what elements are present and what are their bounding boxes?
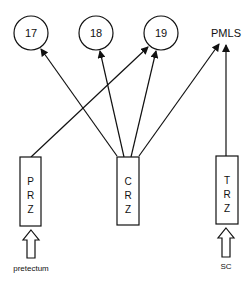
inputs-group: pretectumSC [13,228,234,273]
arrow-crz-to-19 [131,51,156,157]
zone-letter: Z [125,204,131,215]
input-sc: SC [218,228,234,271]
zones-group: PRZCRZTRZ [20,156,238,226]
arrow-crz-to-pmls [139,44,219,156]
target-pmls: PMLS [211,27,241,39]
arrow-crz-to-18 [100,51,124,157]
arrow-prz-to-19 [31,47,148,157]
area-label: 18 [90,27,102,39]
zone-trz: TRZ [216,156,238,224]
zone-letter: R [223,189,230,200]
diagram-canvas: 171819PMLS PRZCRZTRZ pretectumSC [0,0,246,285]
zone-letter: Z [27,204,33,215]
zone-letter: R [27,190,34,201]
input-label: SC [220,262,231,271]
targets-group: 171819PMLS [14,16,241,50]
connections-group [31,44,226,157]
zone-letter: Z [224,203,230,214]
hollow-up-arrow-icon [23,230,39,258]
area-label: 17 [25,27,37,39]
hollow-up-arrow-icon [218,228,234,257]
area-label: 19 [155,27,167,39]
zone-crz: CRZ [117,157,139,225]
zone-letter: T [224,175,230,186]
target-17: 17 [14,16,48,50]
pmls-label: PMLS [211,27,241,39]
target-18: 18 [79,16,113,50]
input-pretectum: pretectum [13,230,49,273]
arrow-crz-to-17 [41,49,117,156]
zone-prz: PRZ [20,157,41,226]
zone-letter: C [124,176,131,187]
target-19: 19 [144,16,178,50]
zone-letter: R [124,190,131,201]
input-label: pretectum [13,264,49,273]
zone-letter: P [27,176,34,187]
